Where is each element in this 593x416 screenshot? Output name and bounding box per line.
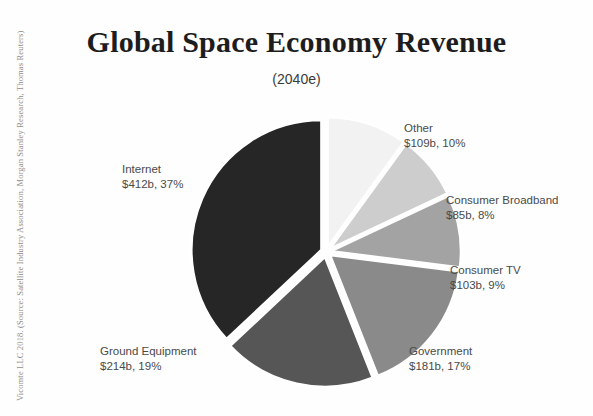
slice-label-consumer-tv-category: Consumer TV: [450, 263, 521, 278]
slice-label-government: Government $181b, 17%: [409, 344, 472, 374]
slice-label-consumer-broadband-category: Consumer Broadband: [446, 193, 559, 208]
credit-strip: Vicomte LLC 2018. (Source: Satellite Ind…: [0, 0, 34, 416]
slice-label-internet: Internet $412b, 37%: [122, 162, 183, 192]
slice-label-consumer-broadband-value: $85b, 8%: [446, 208, 559, 223]
slice-label-other: Other $109b, 10%: [404, 121, 465, 151]
chart-subtitle: (2040e): [0, 71, 593, 87]
slice-label-consumer-tv: Consumer TV $103b, 9%: [450, 263, 521, 293]
source-credit-text: Vicomte LLC 2018. (Source: Satellite Ind…: [15, 1, 25, 401]
chart-title: Global Space Economy Revenue: [0, 25, 593, 59]
slice-label-ground-equipment-value: $214b, 19%: [100, 359, 197, 374]
slice-label-consumer-tv-value: $103b, 9%: [450, 278, 521, 293]
slice-label-other-category: Other: [404, 121, 465, 136]
slice-label-internet-value: $412b, 37%: [122, 177, 183, 192]
slice-label-ground-equipment: Ground Equipment $214b, 19%: [100, 344, 197, 374]
slice-label-government-category: Government: [409, 344, 472, 359]
slice-label-other-value: $109b, 10%: [404, 136, 465, 151]
pie-chart-figure: Vicomte LLC 2018. (Source: Satellite Ind…: [0, 0, 593, 416]
slice-label-ground-equipment-category: Ground Equipment: [100, 344, 197, 359]
slice-label-consumer-broadband: Consumer Broadband $85b, 8%: [446, 193, 559, 223]
slice-label-government-value: $181b, 17%: [409, 359, 472, 374]
slice-label-internet-category: Internet: [122, 162, 183, 177]
